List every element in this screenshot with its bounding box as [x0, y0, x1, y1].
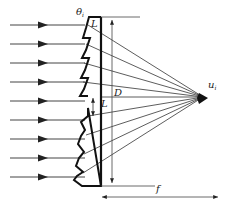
fresnel-lens-diagram: θi L L D f ui [0, 0, 228, 210]
f-label: f [156, 184, 160, 194]
ray-arrowheads [38, 22, 48, 181]
focal-point-icon [197, 93, 208, 104]
l-top-label: L [91, 19, 98, 29]
l-mid-label: L [101, 99, 108, 109]
theta-subscript: i [82, 11, 84, 18]
focal-point-subscript: i [214, 84, 216, 91]
theta-label: θi [76, 7, 84, 18]
d-label: D [114, 88, 122, 98]
focal-point-label: ui [208, 80, 216, 91]
